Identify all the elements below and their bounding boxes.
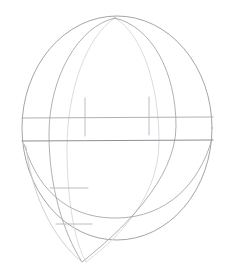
outer-sphere-circle (22, 16, 212, 240)
line-drawing-svg (0, 0, 227, 278)
equator-line-lower (22, 140, 213, 141)
drawing-canvas (0, 0, 227, 278)
inner-slant-arc (26, 146, 82, 262)
equator-line-upper (22, 117, 213, 118)
